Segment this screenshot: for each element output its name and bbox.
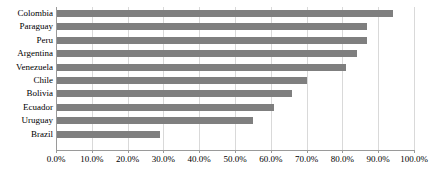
bar-series (56, 7, 414, 150)
x-tick-mark (342, 150, 343, 153)
bar-ecuador (56, 104, 274, 111)
x-tick-mark (128, 150, 129, 153)
bar-paraguay (56, 23, 367, 30)
x-tick-mark (92, 150, 93, 153)
category-label-peru: Peru (0, 34, 53, 47)
x-tick-mark (271, 150, 272, 153)
bar-slot (56, 47, 414, 60)
x-tick-label: 100.0% (400, 152, 428, 166)
bar-slot (56, 20, 414, 33)
bar-uruguay (56, 117, 253, 124)
x-tick-label: 20.0% (116, 152, 139, 166)
y-axis-line (56, 7, 57, 151)
x-tick-mark (163, 150, 164, 153)
bar-slot (56, 87, 414, 100)
bar-slot (56, 101, 414, 114)
x-tick-label: 70.0% (295, 152, 318, 166)
category-label-chile: Chile (0, 74, 53, 87)
x-tick-mark (307, 150, 308, 153)
bar-slot (56, 61, 414, 74)
category-label-brazil: Brazil (0, 128, 53, 141)
category-label-argentina: Argentina (0, 47, 53, 60)
bar-brazil (56, 131, 160, 138)
category-label-paraguay: Paraguay (0, 20, 53, 33)
y-axis-category-labels: ColombiaParaguayPeruArgentinaVenezuelaCh… (0, 7, 53, 150)
x-axis-tick-labels: 0.0%10.0%20.0%30.0%40.0%50.0%60.0%70.0%8… (0, 152, 440, 168)
gridline-1000 (414, 7, 415, 150)
x-tick-mark (56, 150, 57, 153)
bar-chile (56, 77, 307, 84)
bar-bolivia (56, 90, 292, 97)
x-tick-label: 60.0% (259, 152, 282, 166)
bar-slot (56, 114, 414, 127)
x-tick-mark (378, 150, 379, 153)
category-label-uruguay: Uruguay (0, 114, 53, 127)
x-tick-label: 40.0% (188, 152, 211, 166)
x-tick-mark (235, 150, 236, 153)
x-tick-label: 80.0% (331, 152, 354, 166)
plot-area (56, 7, 414, 150)
x-tick-mark (199, 150, 200, 153)
category-label-bolivia: Bolivia (0, 87, 53, 100)
bar-colombia (56, 10, 393, 17)
x-tick-label: 50.0% (223, 152, 246, 166)
x-tick-label: 10.0% (80, 152, 103, 166)
bar-peru (56, 37, 367, 44)
category-label-venezuela: Venezuela (0, 61, 53, 74)
bar-slot (56, 128, 414, 141)
category-label-ecuador: Ecuador (0, 101, 53, 114)
bar-venezuela (56, 64, 346, 71)
bar-slot (56, 7, 414, 20)
x-tick-mark (414, 150, 415, 153)
x-tick-label: 30.0% (152, 152, 175, 166)
x-tick-label: 0.0% (47, 152, 66, 166)
bar-slot (56, 74, 414, 87)
bar-chart: ColombiaParaguayPeruArgentinaVenezuelaCh… (0, 0, 440, 176)
bar-argentina (56, 50, 357, 57)
x-tick-label: 90.0% (367, 152, 390, 166)
bar-slot (56, 34, 414, 47)
category-label-colombia: Colombia (0, 7, 53, 20)
